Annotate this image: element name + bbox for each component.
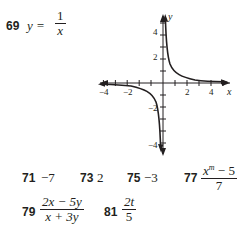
answer-75: −3 <box>144 170 158 186</box>
curve-branch-positive <box>165 18 224 82</box>
answer-81-fraction: 2t 5 <box>122 195 136 224</box>
y-axis-label: y <box>167 11 173 22</box>
answer-71: −7 <box>41 170 55 186</box>
problem-number-81: 81 <box>104 205 117 219</box>
x-axis-label: x <box>226 86 232 97</box>
x-tick-label: −2 <box>123 87 133 97</box>
answer-77-fraction: xm − 5 7 <box>201 161 237 193</box>
problem-number-71: 71 <box>22 171 35 185</box>
x-tick-label: −4 <box>99 87 109 97</box>
denominator: x + 3y <box>43 210 80 224</box>
numerator: xm − 5 <box>201 161 237 178</box>
y-tick-label: 4 <box>153 27 158 37</box>
problem-number-79: 79 <box>22 205 35 219</box>
problem-number-73: 73 <box>80 171 93 185</box>
answer-73: 2 <box>97 170 104 186</box>
x-tick-label: 2 <box>185 87 190 97</box>
y-tick-label: −2 <box>148 103 158 113</box>
y-tick-label: 2 <box>153 52 158 62</box>
problem-number-77: 77 <box>184 171 197 185</box>
x-tick-label: 4 <box>209 87 214 97</box>
numerator: 2t <box>122 195 136 209</box>
numerator: 2x − 5y <box>40 195 84 209</box>
denominator: 7 <box>214 179 225 193</box>
numerator-rest: − 5 <box>215 163 235 178</box>
denominator: 5 <box>124 210 135 224</box>
answer-79-fraction: 2x − 5y x + 3y <box>40 195 84 224</box>
y-tick-label: −4 <box>148 140 158 150</box>
hyperbola-graph: −4 −2 2 4 4 2 −2 −4 x y <box>0 0 247 170</box>
problem-number-75: 75 <box>127 171 140 185</box>
